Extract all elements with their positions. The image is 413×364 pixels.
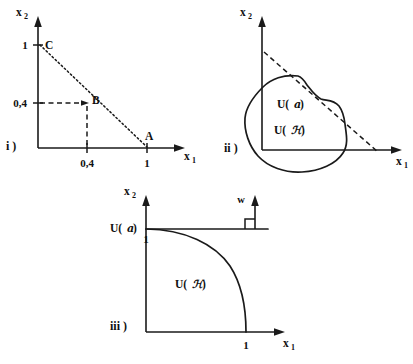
panel-i-y-axis-label-subscript: 2: [24, 12, 28, 21]
panel-ii-region-u-script-close: ): [301, 124, 305, 137]
panel-ii-region-label-u-script-a: U( ℋ ): [274, 124, 305, 137]
panel-iii-region-u-script-open: U(: [175, 278, 187, 291]
panel-i-x-axis-label-subscript: 1: [192, 156, 196, 165]
panel-ii-y-axis-arrowhead: [258, 16, 266, 27]
panel-ii-region-u-a-open: U(: [277, 98, 289, 111]
panel-iii-y-tick-label-1: 1: [143, 233, 149, 245]
panel-ii-y-axis-label: x: [240, 6, 246, 18]
panel-iii-y-axis-label: x: [124, 185, 130, 197]
panel-i-y-axis-label: x: [16, 6, 22, 18]
panel-i-point-label-c: C: [45, 39, 53, 51]
panel-iii-x-axis-arrowhead: [274, 328, 285, 336]
panel-iii-x-axis-label: x: [283, 337, 289, 349]
panel-ii-x-axis-label-subscript: 1: [404, 161, 408, 170]
panel-iii-w-arrow-head: [251, 195, 259, 206]
panel-iii-w-label: w: [237, 194, 245, 205]
panel-ii-label: ii ): [224, 141, 238, 155]
panel-iii: x 2 x 1 w 1 1 U( a ): [110, 185, 295, 352]
panel-iii-x-tick-label-1: 1: [243, 339, 249, 351]
diagram-canvas: x 2 x 1 1 0,4 0,4 1 C B A: [0, 0, 413, 364]
panel-ii-y-axis-label-subscript: 2: [248, 12, 252, 21]
panel-i-point-label-b: B: [92, 94, 100, 106]
panel-iii-region-label-u-a: U( a ): [110, 222, 137, 235]
panel-ii-x-axis-arrowhead: [391, 146, 402, 154]
panel-i: x 2 x 1 1 0,4 0,4 1 C B A: [6, 6, 196, 169]
panel-i-x-axis-label: x: [184, 150, 190, 162]
panel-iii-y-axis-arrowhead: [142, 195, 150, 206]
panel-i-y-tick-label-04: 0,4: [13, 97, 27, 109]
panel-iii-region-label-u-script-a: U( ℋ ): [175, 278, 206, 291]
panel-ii-region-u-a-close: ): [300, 98, 304, 111]
panel-ii: x 2 x 1 U( a ) U( ℋ ) ii ): [224, 6, 408, 172]
panel-i-point-label-a: A: [145, 130, 154, 142]
panel-i-y-axis-arrowhead: [34, 16, 42, 27]
panel-iii-step-box: [245, 219, 255, 229]
panel-ii-x-axis-label: x: [396, 155, 402, 167]
panel-iii-region-u-script-close: ): [202, 278, 206, 291]
figure-root: x 2 x 1 1 0,4 0,4 1 C B A: [0, 0, 413, 364]
panel-i-label: i ): [6, 139, 16, 153]
panel-ii-region-label-u-a: U( a ): [277, 98, 304, 111]
panel-iii-region-u-a-close: ): [133, 222, 137, 235]
panel-iii-x-axis-label-subscript: 1: [291, 343, 295, 352]
panel-i-guide-horizontal-arrowhead: [81, 100, 89, 105]
panel-ii-region-u-script-open: U(: [274, 124, 286, 137]
panel-iii-y-axis-label-subscript: 2: [132, 191, 136, 200]
panel-iii-label: iii ): [110, 319, 127, 333]
panel-i-x-tick-label-1: 1: [144, 157, 150, 169]
panel-i-x-tick-label-04: 0,4: [80, 157, 94, 169]
panel-i-y-tick-label-1: 1: [22, 39, 28, 51]
panel-iii-region-u-a-open: U(: [110, 222, 122, 235]
